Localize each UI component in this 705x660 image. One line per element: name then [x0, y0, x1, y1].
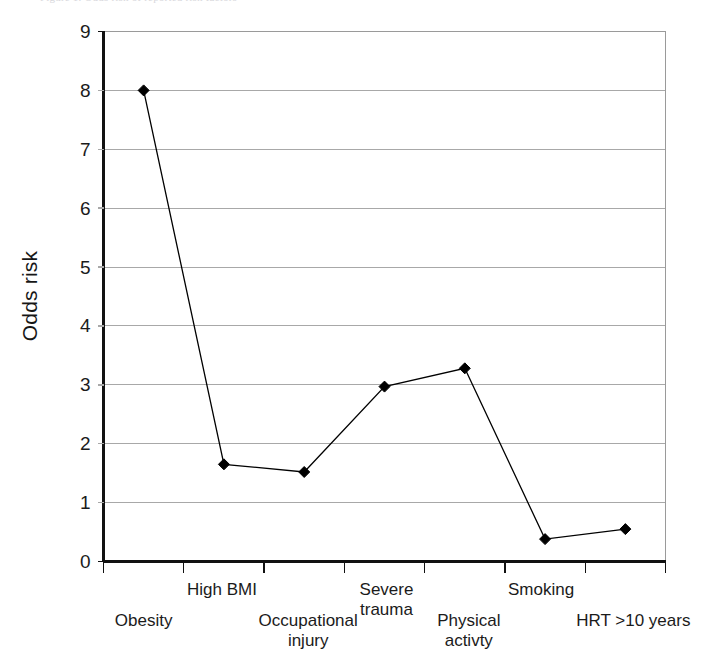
x-category-label: Obesity — [78, 611, 210, 631]
x-category-label: Physical activty — [403, 611, 535, 651]
x-category-label: HRT >10 years — [567, 611, 699, 631]
gridlines — [104, 32, 666, 503]
chart-figure: Figure 1. Odds risk of reported risk fac… — [0, 0, 705, 660]
x-category-label: Smoking — [475, 580, 607, 600]
y-tick-label: 0 — [65, 552, 91, 571]
plot-area — [0, 0, 705, 660]
y-tick-label: 3 — [65, 375, 91, 394]
y-tick-label: 5 — [65, 258, 91, 277]
y-tick-label: 2 — [65, 434, 91, 453]
y-tick-label: 7 — [65, 140, 91, 159]
y-tick-label: 1 — [65, 493, 91, 512]
data-series-line — [144, 90, 626, 539]
x-axis-ticks — [104, 562, 666, 573]
y-tick-label: 8 — [65, 81, 91, 100]
y-tick-label: 4 — [65, 316, 91, 335]
y-tick-label: 9 — [65, 22, 91, 41]
y-tick-label: 6 — [65, 199, 91, 218]
data-series-markers — [138, 85, 631, 545]
x-category-label: High BMI — [156, 580, 288, 600]
